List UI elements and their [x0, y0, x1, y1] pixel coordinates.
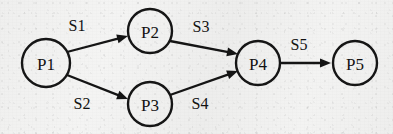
edge-S4-arrowhead [226, 70, 238, 78]
node-P5-label: P5 [346, 55, 364, 74]
node-P4-label: P4 [249, 55, 267, 74]
node-P3[interactable]: P3 [128, 82, 172, 126]
edge-S1-arrowhead [116, 34, 128, 43]
edge-S1-label: S1 [69, 17, 86, 34]
edge-S5-arrowhead [320, 59, 331, 68]
edge-S4-line [170, 74, 230, 95]
node-P2-label: P2 [141, 23, 159, 42]
edge-S2[interactable]: S2 [67, 75, 128, 112]
edge-S1[interactable]: S1 [67, 17, 128, 53]
edge-S4-label: S4 [192, 95, 209, 112]
edge-S2-arrowhead [116, 91, 128, 99]
diagram-canvas-container: S1 S2 S3 S4 S5 [0, 0, 393, 134]
edge-S1-line [67, 38, 120, 52]
process-flow-graph: S1 S2 S3 S4 S5 [0, 0, 393, 134]
node-P2[interactable]: P2 [128, 9, 172, 53]
edge-S2-label: S2 [74, 95, 91, 112]
node-P5[interactable]: P5 [333, 41, 377, 85]
edge-S2-line [67, 75, 120, 96]
edge-S5-label: S5 [291, 36, 308, 53]
edge-group: S1 S2 S3 S4 S5 [67, 17, 331, 112]
node-P3-label: P3 [141, 96, 159, 115]
node-P1-label: P1 [37, 55, 55, 74]
edge-S3-label: S3 [193, 18, 210, 35]
edge-S3[interactable]: S3 [170, 18, 238, 57]
edge-S5[interactable]: S5 [281, 36, 331, 68]
edge-S3-line [170, 41, 230, 52]
node-P4[interactable]: P4 [236, 41, 280, 85]
node-P1[interactable]: P1 [22, 39, 70, 87]
edge-S4[interactable]: S4 [170, 70, 238, 111]
